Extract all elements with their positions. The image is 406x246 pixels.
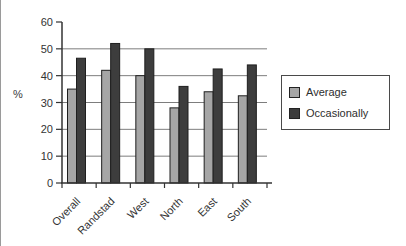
bar-occasionally-randstad bbox=[111, 43, 120, 183]
x-axis-label: Randstad bbox=[75, 195, 117, 237]
bar-average-south bbox=[238, 96, 247, 183]
legend-label-occasionally: Occasionally bbox=[306, 107, 368, 119]
y-axis-tick-label: 20 bbox=[41, 123, 53, 135]
y-axis-tick-label: 10 bbox=[41, 150, 53, 162]
legend-item-occasionally: Occasionally bbox=[289, 107, 389, 119]
y-axis-tick-label: 30 bbox=[41, 97, 53, 109]
y-axis-tick-label: 60 bbox=[41, 16, 53, 28]
legend: Average Occasionally bbox=[281, 75, 390, 130]
bar-occasionally-east bbox=[213, 69, 222, 183]
x-axis-label: Overall bbox=[49, 195, 82, 228]
bar-chart-figure: 0102030405060OverallRandstadWestNorthEas… bbox=[0, 0, 406, 246]
legend-label-average: Average bbox=[306, 86, 347, 98]
x-axis-label: North bbox=[157, 195, 185, 223]
y-axis-title: % bbox=[13, 88, 23, 100]
bar-average-randstad bbox=[102, 70, 111, 183]
bar-average-north bbox=[170, 108, 179, 183]
y-axis-tick-label: 40 bbox=[41, 70, 53, 82]
legend-swatch-occasionally-icon bbox=[289, 108, 300, 119]
x-axis-label: West bbox=[125, 195, 151, 221]
bar-average-east bbox=[204, 92, 213, 183]
x-axis-label: South bbox=[225, 195, 254, 224]
bar-occasionally-south bbox=[247, 65, 256, 183]
legend-swatch-average-icon bbox=[289, 87, 300, 98]
y-axis-tick-label: 50 bbox=[41, 43, 53, 55]
y-axis-tick-label: 0 bbox=[47, 177, 53, 189]
bar-average-west bbox=[136, 76, 145, 183]
bar-occasionally-north bbox=[179, 86, 188, 183]
legend-item-average: Average bbox=[289, 86, 389, 98]
bar-occasionally-overall bbox=[77, 58, 86, 183]
bar-average-overall bbox=[68, 89, 77, 183]
bar-occasionally-west bbox=[145, 49, 154, 183]
x-axis-label: East bbox=[195, 195, 219, 219]
